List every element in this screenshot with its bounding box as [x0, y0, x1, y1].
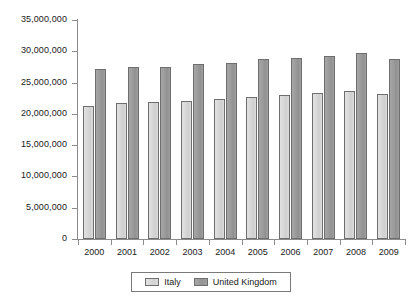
y-axis-label: 5,000,000 [26, 203, 67, 212]
bar-united-kingdom-2003 [193, 64, 204, 239]
bar-united-kingdom-2005 [258, 59, 269, 239]
y-axis-label: 30,000,000 [21, 46, 67, 55]
bar-italy-2005 [246, 97, 257, 239]
x-axis-label: 2001 [111, 247, 143, 257]
bar-italy-2002 [148, 102, 159, 239]
x-axis-tick [307, 240, 308, 245]
x-axis-label: 2007 [307, 247, 339, 257]
y-axis-label: 10,000,000 [21, 171, 67, 180]
legend-swatch-icon-italy [145, 278, 159, 286]
plot-area [78, 20, 405, 239]
bar-chart: 05,000,00010,000,00015,000,00020,000,000… [0, 0, 419, 306]
legend-label-italy: Italy [164, 277, 181, 287]
bar-united-kingdom-2006 [291, 58, 302, 239]
x-axis-tick [209, 240, 210, 245]
x-axis-tick [340, 240, 341, 245]
x-axis-tick [78, 240, 79, 245]
bar-italy-2001 [116, 103, 127, 239]
bar-italy-2004 [214, 99, 225, 239]
y-axis-label: 0 [62, 234, 67, 243]
x-axis-label: 2005 [242, 247, 274, 257]
legend-item-italy: Italy [145, 277, 181, 287]
x-axis-tick [274, 240, 275, 245]
x-axis-label: 2002 [144, 247, 176, 257]
bar-italy-2008 [344, 91, 355, 239]
bar-united-kingdom-2000 [95, 69, 106, 239]
bar-united-kingdom-2004 [226, 63, 237, 239]
y-axis-label: 25,000,000 [21, 78, 67, 87]
x-axis-tick [143, 240, 144, 245]
bar-united-kingdom-2009 [389, 59, 400, 239]
y-axis-label: 20,000,000 [21, 109, 67, 118]
bar-italy-2006 [279, 95, 290, 239]
chart-legend: Italy United Kingdom [131, 272, 291, 292]
bar-italy-2003 [181, 101, 192, 239]
x-axis-label: 2003 [176, 247, 208, 257]
x-axis-label: 2000 [78, 247, 110, 257]
y-axis-label: 35,000,000 [21, 15, 67, 24]
legend-swatch-icon-united-kingdom [194, 278, 208, 286]
bar-united-kingdom-2008 [356, 53, 367, 239]
legend-item-united-kingdom: United Kingdom [194, 277, 277, 287]
bar-italy-2007 [312, 93, 323, 239]
bar-italy-2009 [377, 94, 388, 239]
bar-united-kingdom-2001 [128, 67, 139, 239]
x-axis-tick [176, 240, 177, 245]
legend-label-united-kingdom: United Kingdom [213, 277, 277, 287]
x-axis-label: 2009 [373, 247, 405, 257]
y-axis-label: 15,000,000 [21, 140, 67, 149]
x-axis-tick [242, 240, 243, 245]
x-axis-label: 2004 [209, 247, 241, 257]
x-axis-tick [111, 240, 112, 245]
bar-italy-2000 [83, 106, 94, 239]
x-axis-label: 2008 [340, 247, 372, 257]
x-axis-tick [372, 240, 373, 245]
bar-united-kingdom-2002 [160, 67, 171, 239]
x-axis-tick [405, 240, 406, 245]
bar-united-kingdom-2007 [324, 56, 335, 239]
x-axis-label: 2006 [275, 247, 307, 257]
